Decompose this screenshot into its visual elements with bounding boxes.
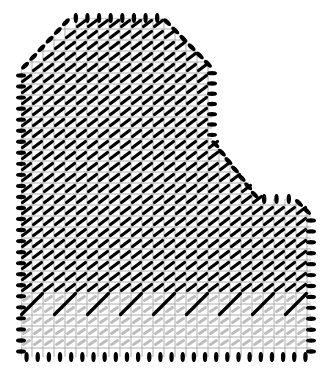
stitch-pattern-diagram [0, 0, 329, 376]
